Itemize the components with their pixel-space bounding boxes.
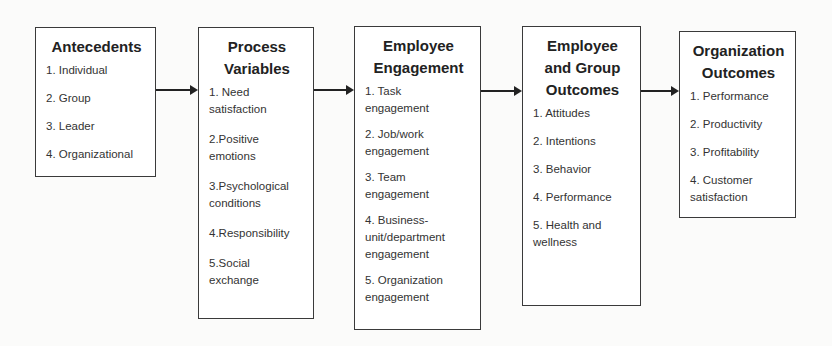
box-title: Employee and Group Outcomes	[533, 35, 632, 101]
item-list: 1. Task engagement 2. Job/work engagemen…	[365, 83, 472, 306]
list-item: 2. Job/work engagement	[365, 126, 472, 160]
list-item: 4.Responsibility	[209, 225, 305, 242]
list-item: 4. Business- unit/department engagement	[365, 212, 472, 263]
list-item: 1. Performance	[690, 88, 787, 105]
item-list: 1. Attitudes 2. Intentions 3. Behavior 4…	[533, 105, 632, 251]
list-item: 4. Performance	[533, 189, 632, 206]
item-list: 1. Individual 2. Group 3. Leader 4. Orga…	[46, 62, 147, 163]
list-item: 3. Profitability	[690, 144, 787, 161]
list-item: 3. Leader	[46, 118, 147, 135]
box-process-variables: Process Variables 1. Need satisfaction 2…	[198, 27, 314, 319]
box-employee-group-outcomes: Employee and Group Outcomes 1. Attitudes…	[522, 26, 641, 306]
list-item: 2. Intentions	[533, 133, 632, 150]
arrow-4	[641, 90, 677, 92]
arrow-2	[314, 89, 352, 91]
list-item: 3. Team engagement	[365, 169, 472, 203]
item-list: 1. Need satisfaction 2.Positive emotions…	[209, 84, 305, 289]
list-item: 1. Individual	[46, 62, 147, 79]
list-item: 2.Positive emotions	[209, 131, 305, 165]
list-item: 5. Health and wellness	[533, 217, 632, 251]
list-item: 5.Social exchange	[209, 255, 305, 289]
box-employee-engagement: Employee Engagement 1. Task engagement 2…	[354, 26, 481, 330]
list-item: 2. Group	[46, 90, 147, 107]
box-title: Employee Engagement	[365, 35, 472, 79]
item-list: 1. Performance 2. Productivity 3. Profit…	[690, 88, 787, 206]
box-title: Process Variables	[209, 36, 305, 80]
list-item: 1. Need satisfaction	[209, 84, 305, 118]
list-item: 5. Organization engagement	[365, 272, 472, 306]
list-item: 1. Task engagement	[365, 83, 472, 117]
box-organization-outcomes: Organization Outcomes 1. Performance 2. …	[679, 31, 796, 218]
box-antecedents: Antecedents 1. Individual 2. Group 3. Le…	[35, 27, 156, 177]
list-item: 4. Organizational	[46, 146, 147, 163]
box-title: Antecedents	[46, 36, 147, 58]
list-item: 3.Psychological conditions	[209, 178, 305, 212]
arrow-1	[156, 89, 196, 91]
list-item: 1. Attitudes	[533, 105, 632, 122]
list-item: 4. Customer satisfaction	[690, 172, 787, 206]
arrow-3	[481, 90, 520, 92]
box-title: Organization Outcomes	[690, 40, 787, 84]
list-item: 2. Productivity	[690, 116, 787, 133]
list-item: 3. Behavior	[533, 161, 632, 178]
